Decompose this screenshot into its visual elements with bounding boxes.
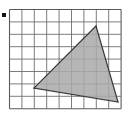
triangle-vertex-left <box>33 87 34 88</box>
triangle-vertex-bottom-right <box>117 101 118 102</box>
grid-triangle-figure <box>0 0 134 118</box>
edge-marker <box>2 13 6 17</box>
triangle-vertex-top <box>95 25 96 26</box>
figure-root: Shaded triangle on square grid <box>0 0 134 118</box>
